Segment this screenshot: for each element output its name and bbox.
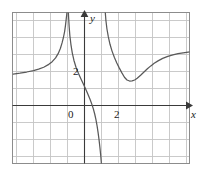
graph-canvas: y x 0 2 2 (0, 0, 204, 180)
x-tick-label-2: 2 (114, 108, 120, 120)
y-tick-label-2: 2 (73, 65, 79, 77)
x-axis-label: x (190, 108, 196, 120)
canvas-background (0, 0, 204, 180)
y-axis-label: y (89, 12, 95, 24)
x-tick-label-0: 0 (68, 108, 74, 120)
figure-container: y x 0 2 2 (0, 0, 204, 180)
